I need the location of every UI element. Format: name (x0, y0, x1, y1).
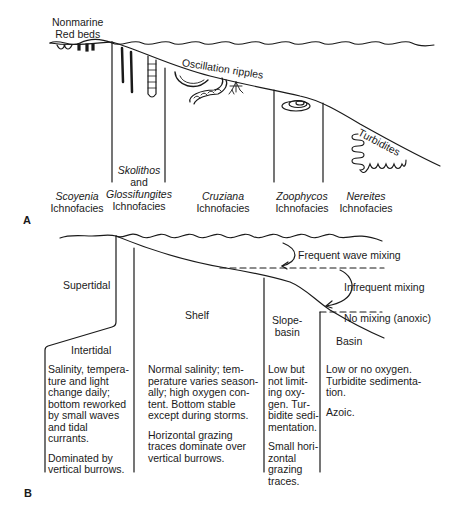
infrequent-mixing-label: Infrequent mixing (344, 281, 425, 293)
scoyenia-ichnofacies-label: Scoyenia Ichnofacies (44, 190, 110, 214)
zoophycos-trace-icon (282, 101, 310, 112)
skolithos-glossifungites-ichnofacies-label: Skolithos and Glossifungites Ichnofacies (104, 164, 174, 212)
skolithos-burrows-icon (122, 48, 156, 97)
slope-traces: Small hori- zontal grazing traces. (268, 441, 320, 487)
supertidal-label: Supertidal (63, 279, 110, 291)
slope-basin-description: Low but not limit- ing oxy- gen. Tur- bi… (268, 364, 320, 495)
shelf-traces: Horizontal grazing traces dominate over … (148, 430, 264, 465)
frequent-wave-mixing-label: Frequent wave mixing (298, 249, 401, 261)
basin-description: Low or no oxygen. Turbidite sedimenta- t… (326, 364, 436, 426)
basin-label: Basin (336, 335, 362, 347)
cruziana-traces-icon (175, 72, 243, 104)
basin-traces: Azoic. (326, 407, 436, 419)
panel-a-letter: A (23, 214, 31, 226)
zoophycos-ichnofacies-label: Zoophycos Ichnofacies (269, 190, 335, 214)
sea-surface-wave-b (60, 234, 382, 241)
intertidal-label: Intertidal (71, 344, 111, 356)
nonmarine-red-beds-label: Nonmarine Red beds (52, 16, 103, 40)
shelf-description: Normal salinity; tem- perature varies se… (148, 364, 264, 472)
basin-conditions: Low or no oxygen. Turbidite sedimenta- t… (326, 364, 436, 399)
frequent-mixing-arrow (282, 243, 295, 266)
shelf-conditions: Normal salinity; tem- perature varies se… (148, 364, 264, 422)
no-mixing-anoxic-label: No mixing (anoxic) (344, 312, 431, 324)
panel-a-lines (50, 39, 440, 182)
slope-conditions: Low but not limit- ing oxy- gen. Tur- bi… (268, 364, 320, 433)
intertidal-traces: Dominated by vertical burrows. (48, 453, 134, 476)
shelf-label: Shelf (185, 309, 209, 321)
intertidal-conditions: Salinity, tempera- ture and light change… (48, 364, 134, 445)
cruziana-ichnofacies-label: Cruziana Ichnofacies (190, 190, 256, 214)
nereites-ichnofacies-label: Nereites Ichnofacies (333, 190, 399, 214)
intertidal-description: Salinity, tempera- ture and light change… (48, 364, 134, 484)
panel-b-letter: B (24, 487, 32, 499)
slope-basin-label: Slope- basin (272, 314, 302, 338)
